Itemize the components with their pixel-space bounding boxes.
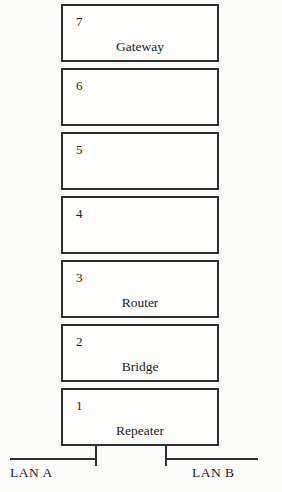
layer-number: 3 xyxy=(76,271,83,284)
layer-number: 1 xyxy=(76,399,83,412)
layer-box-5: 5 xyxy=(61,132,219,190)
layer-number: 2 xyxy=(76,335,83,348)
layer-label: Router xyxy=(63,296,217,310)
network-layers-diagram: 7 Gateway 6 5 4 3 Router 2 Bridge 1 Repe… xyxy=(0,0,282,492)
layer-number: 6 xyxy=(76,79,83,92)
layer-number: 5 xyxy=(76,143,83,156)
connector-line-right xyxy=(165,445,167,466)
layer-box-6: 6 xyxy=(61,68,219,126)
layer-number: 4 xyxy=(76,207,83,220)
layer-box-7: 7 Gateway xyxy=(61,4,219,62)
lan-a-line xyxy=(10,458,97,460)
layer-stack: 7 Gateway 6 5 4 3 Router 2 Bridge 1 Repe… xyxy=(61,4,219,446)
layer-box-3: 3 Router xyxy=(61,260,219,318)
layer-box-4: 4 xyxy=(61,196,219,254)
layer-box-2: 2 Bridge xyxy=(61,324,219,382)
connector-line-left xyxy=(95,445,97,466)
layer-number: 7 xyxy=(76,15,83,28)
layer-label: Gateway xyxy=(63,40,217,54)
lan-b-label: LAN B xyxy=(192,466,235,480)
lan-a-label: LAN A xyxy=(10,466,53,480)
layer-label: Bridge xyxy=(63,360,217,374)
layer-box-1: 1 Repeater xyxy=(61,388,219,446)
layer-label: Repeater xyxy=(63,424,217,438)
lan-b-line xyxy=(166,458,258,460)
